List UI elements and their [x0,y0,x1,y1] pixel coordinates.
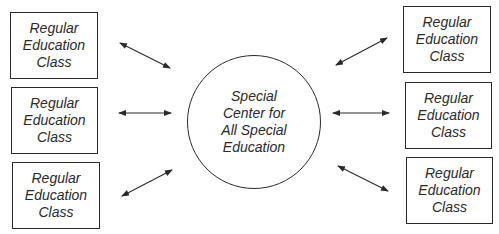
regular-class-right-2: Regular Education Class [405,82,492,149]
arrow-left-3 [122,170,172,196]
center-line: Education [223,139,285,156]
box-line: Education [417,107,479,124]
regular-class-left-3: Regular Education Class [12,162,100,229]
arrow-left-1 [120,43,170,68]
box-line: Education [418,182,480,199]
box-line: Class [432,199,467,216]
regular-class-left-2: Regular Education Class [11,87,98,154]
box-line: Class [429,48,464,65]
box-line: Class [431,124,466,141]
special-center-circle: Special Center for All Special Education [187,55,321,189]
box-line: Regular [30,95,79,112]
center-line: Center for [223,105,285,122]
box-line: Education [23,37,85,54]
arrow-right-1 [336,38,387,65]
box-line: Regular [425,165,474,182]
box-line: Education [25,187,87,204]
box-line: Class [36,54,71,71]
regular-class-right-1: Regular Education Class [403,6,491,73]
regular-class-left-1: Regular Education Class [10,12,98,79]
arrow-right-3 [338,166,388,191]
box-line: Regular [424,90,473,107]
box-line: Class [37,129,72,146]
box-line: Regular [29,20,78,37]
regular-class-right-3: Regular Education Class [406,157,493,224]
center-line: All Special [221,122,286,139]
center-line: Special [231,88,277,105]
box-line: Regular [31,170,80,187]
box-line: Class [38,204,73,221]
box-line: Regular [422,14,471,31]
box-line: Education [23,112,85,129]
box-line: Education [416,31,478,48]
